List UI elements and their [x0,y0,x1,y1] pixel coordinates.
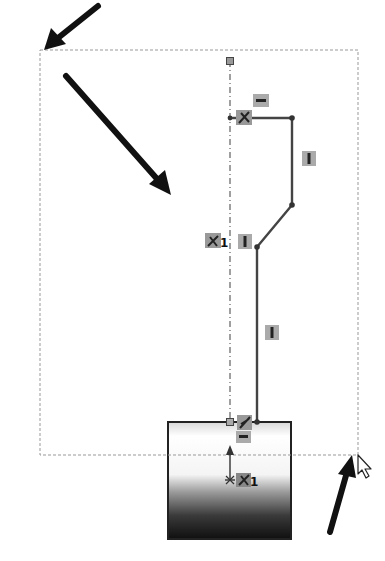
fix-relation-origin-count: 1 [250,475,258,489]
vertex-mid-right[interactable] [289,202,295,208]
vertical-relation-icon-right[interactable] [302,151,316,166]
fix-relation-icon-centerline[interactable]: 1 [205,233,228,250]
vertex-mid-left[interactable] [254,244,260,250]
fix-relation-count: 1 [220,236,228,250]
coincident-relation-icon-top[interactable] [236,110,252,125]
horizontal-relation-icon-top[interactable] [253,94,269,107]
selection-box [40,50,358,455]
annotation-arrow-top-left [44,6,98,50]
sketch-profile[interactable] [230,118,292,422]
annotation-arrow-diagonal [66,76,171,195]
fix-relation-icon-origin[interactable]: 1 [236,473,258,489]
centerline-endpoint[interactable] [227,58,234,65]
vertex-top-left[interactable] [228,116,233,121]
centerline-bottom-endpoint[interactable] [227,419,234,426]
vertical-relation-icon-mid[interactable] [238,234,252,249]
vertical-relation-icon-lower[interactable] [265,325,279,340]
coincident-relation-icon-bottom[interactable] [237,415,252,430]
vertex-bottom[interactable] [254,419,260,425]
horizontal-relation-icon-bottom[interactable] [236,431,251,443]
sketch-canvas[interactable]: 1 1 [0,0,385,561]
annotation-arrow-bottom-right [330,455,356,532]
mouse-cursor-icon [358,455,371,478]
vertex-top-right[interactable] [289,115,295,121]
